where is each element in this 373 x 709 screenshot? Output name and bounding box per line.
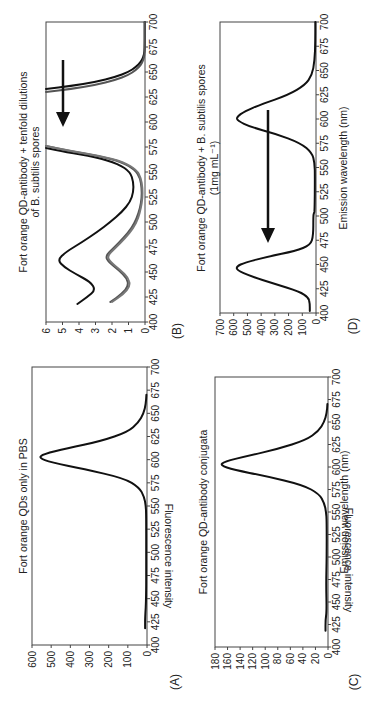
intensity-tick-label: 180 (210, 653, 221, 670)
wavelength-tick-label: 650 (331, 413, 342, 430)
intensity-tick-label: 0 (323, 653, 334, 659)
panel-a-letter: (A) (168, 674, 182, 690)
wavelength-tick-label: 425 (319, 280, 330, 297)
intensity-tick-label: 400 (256, 319, 267, 336)
intensity-tick-label: 4 (74, 328, 85, 334)
wavelength-tick-label: 650 (150, 405, 161, 422)
wavelength-tick-label: 600 (150, 451, 161, 468)
wavelength-tick-label: 675 (319, 37, 330, 54)
wavelength-tick-label: 450 (331, 593, 342, 610)
wavelength-tick-label: 500 (150, 544, 161, 561)
spectrum-line (40, 395, 146, 629)
intensity-tick-label: 200 (103, 651, 114, 668)
panel-d-title-line1: Fort orange QD-antibody + B. subtilis sp… (195, 64, 207, 271)
wavelength-tick-label: 525 (150, 520, 161, 537)
intensity-ticks-b: 0123456 (41, 322, 151, 334)
wavelength-tick-label: 400 (319, 304, 330, 321)
spectrum-line (46, 148, 133, 304)
wavelength-tick-label: 675 (331, 391, 342, 408)
intensity-tick-label: 1 (123, 328, 134, 334)
spectrum-d (237, 22, 316, 311)
wavelength-tick-label: 575 (150, 474, 161, 491)
spectrum-line (237, 22, 316, 311)
intensity-tick-label: 20 (310, 653, 321, 665)
wavelength-tick-label: 700 (331, 368, 342, 385)
wavelength-tick-label: 450 (319, 256, 330, 273)
panel-c-title: Fort orange QD-antibody conjugata (197, 430, 209, 595)
wavelength-ticks-a: 400425450475500525550575600625650675700 (147, 358, 161, 653)
intensity-tick-label: 120 (247, 653, 258, 670)
panel-b-letter: (B) (170, 323, 184, 339)
intensity-tick-label: 500 (242, 319, 253, 336)
wavelength-tick-label: 650 (319, 62, 330, 79)
intensity-ticks-c: 020406080100120140160180 (210, 647, 334, 670)
wavelength-tick-label: 625 (150, 428, 161, 445)
wavelength-tick-label: 700 (319, 13, 330, 30)
panel-a-ylabel: Fluorescence intensity (163, 504, 175, 609)
intensity-tick-label: 40 (297, 653, 308, 665)
wavelength-tick-label: 400 (150, 636, 161, 653)
wavelength-tick-label: 475 (148, 238, 159, 255)
wavelength-tick-label: 575 (319, 134, 330, 151)
intensity-tick-label: 140 (235, 653, 246, 670)
wavelength-tick-label: 450 (148, 263, 159, 280)
wavelength-tick-label: 475 (319, 231, 330, 248)
wavelength-tick-label: 625 (331, 436, 342, 453)
figure: 400425450475500525550575600625650675700 … (0, 0, 373, 709)
intensity-tick-label: 300 (269, 319, 280, 336)
intensity-tick-label: 60 (285, 653, 296, 665)
wavelength-tick-label: 400 (148, 313, 159, 330)
plot-area-c (215, 377, 328, 647)
wavelength-tick-label: 600 (148, 113, 159, 130)
spectrum-line (46, 146, 143, 302)
intensity-ticks-d: 0100200300400500600700 (215, 313, 322, 336)
intensity-tick-label: 200 (283, 319, 294, 336)
intensity-tick-label: 100 (122, 651, 133, 668)
intensity-ticks-a: 0100200300400500600 (27, 645, 153, 668)
wavelength-tick-label: 400 (331, 638, 342, 655)
intensity-tick-label: 2 (107, 328, 118, 334)
wavelength-tick-label: 550 (319, 159, 330, 176)
intensity-tick-label: 400 (65, 651, 76, 668)
panel-d-letter: (D) (346, 318, 360, 335)
wavelength-tick-label: 425 (148, 288, 159, 305)
wavelength-tick-label: 500 (319, 207, 330, 224)
panel-a: 400425450475500525550575600625650675700 … (17, 358, 182, 690)
wavelength-tick-label: 550 (150, 497, 161, 514)
panel-a-title: Fort orange QDs only in PBS (17, 438, 29, 573)
wavelength-tick-label: 450 (150, 590, 161, 607)
intensity-tick-label: 80 (272, 653, 283, 665)
spectrum-line (222, 404, 328, 631)
wavelength-tick-label: 475 (150, 567, 161, 584)
panel-c-letter: (C) (347, 674, 361, 691)
wavelength-tick-label: 575 (148, 138, 159, 155)
wavelength-tick-label: 550 (148, 163, 159, 180)
wavelength-tick-label: 425 (150, 613, 161, 630)
arrow-b (56, 60, 70, 127)
intensity-tick-label: 100 (297, 319, 308, 336)
wavelength-ticks-b: 400425450475500525550575600625650675700 (145, 13, 159, 330)
wavelength-tick-label: 625 (319, 86, 330, 103)
wavelength-ticks-d: 400425450475500525550575600625650675700 (316, 13, 330, 321)
wavelength-tick-label: 700 (150, 358, 161, 375)
intensity-tick-label: 100 (260, 653, 271, 670)
intensity-tick-label: 0 (140, 328, 151, 334)
spectrum-line (46, 22, 145, 89)
wavelength-tick-label: 525 (319, 183, 330, 200)
wavelength-tick-label: 625 (148, 88, 159, 105)
wavelength-tick-label: 600 (319, 110, 330, 127)
intensity-tick-label: 5 (57, 328, 68, 334)
intensity-tick-label: 6 (41, 328, 52, 334)
panel-d-xlabel: Emission wavelength (nm) (337, 106, 349, 229)
intensity-tick-label: 160 (222, 653, 233, 670)
wavelength-tick-label: 425 (331, 616, 342, 633)
wavelength-tick-label: 525 (148, 188, 159, 205)
plot-area-a (32, 367, 147, 645)
intensity-tick-label: 3 (90, 328, 101, 334)
wavelength-tick-label: 675 (150, 381, 161, 398)
intensity-tick-label: 300 (84, 651, 95, 668)
intensity-tick-label: 700 (215, 319, 226, 336)
wavelength-tick-label: 650 (148, 63, 159, 80)
wavelength-tick-label: 675 (148, 38, 159, 55)
intensity-tick-label: 600 (228, 319, 239, 336)
